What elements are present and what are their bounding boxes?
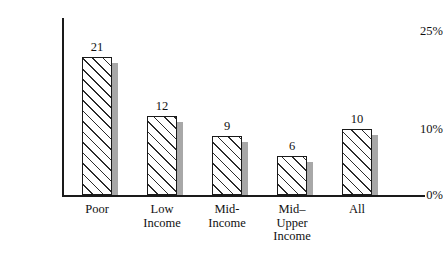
y-axis-tick-label: 10% — [391, 123, 443, 136]
bar-value-label: 10 — [330, 113, 384, 126]
bar-shadow — [372, 135, 378, 195]
plot-area: 25%10%0% 21129610 PoorLow IncomeMid- Inc… — [0, 0, 443, 258]
bar-value-label: 6 — [265, 140, 319, 153]
x-axis-category-label: Mid- Income — [195, 203, 259, 230]
y-axis-tick-label: 25% — [391, 25, 443, 38]
bar — [212, 136, 242, 195]
x-axis-category-label: All — [325, 203, 389, 217]
bar-value-label: 21 — [70, 41, 124, 54]
bar — [82, 57, 112, 195]
bar-value-label: 9 — [200, 120, 254, 133]
bar-shadow — [177, 122, 183, 195]
y-axis-line — [62, 18, 64, 197]
x-axis-category-label: Mid– Upper Income — [260, 203, 324, 244]
bar — [277, 156, 307, 195]
bar-chart: 25%10%0% 21129610 PoorLow IncomeMid- Inc… — [0, 0, 443, 258]
x-axis-category-label: Low Income — [130, 203, 194, 230]
bar-shadow — [307, 162, 313, 195]
x-axis-category-label: Poor — [65, 203, 129, 217]
bar — [147, 116, 177, 195]
y-axis-tick-label: 0% — [391, 189, 443, 202]
bar — [342, 129, 372, 195]
bar-shadow — [242, 142, 248, 195]
bar-shadow — [112, 63, 118, 195]
x-axis-line — [62, 195, 425, 197]
bar-value-label: 12 — [135, 100, 189, 113]
